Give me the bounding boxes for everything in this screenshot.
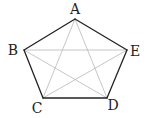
vertex-label-e: E (130, 43, 140, 59)
pentagon-diagram: A B C D E (0, 0, 149, 118)
vertex-label-a: A (69, 1, 81, 17)
vertex-label-b: B (8, 42, 18, 58)
diagonal-ac (43, 19, 75, 98)
edge-ab (24, 19, 75, 50)
edge-de (107, 50, 127, 98)
vertex-label-d: D (107, 97, 118, 113)
diagonal-ad (75, 19, 107, 98)
pentagon-svg: A B C D E (0, 0, 149, 118)
edge-bc (24, 50, 43, 98)
diagonal-ce (43, 50, 127, 98)
edge-ea (75, 19, 127, 50)
vertex-label-c: C (32, 100, 43, 116)
diagonal-bd (24, 50, 107, 98)
